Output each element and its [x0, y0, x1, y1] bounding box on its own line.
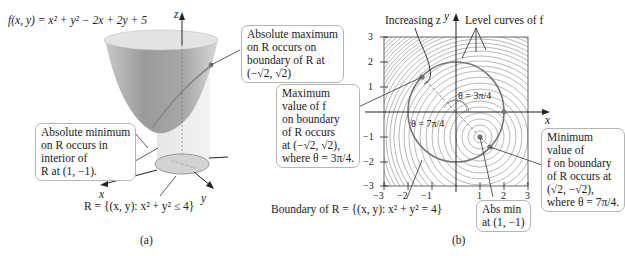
y-axis-label: y — [201, 192, 206, 204]
y-tick: 2 — [368, 56, 373, 67]
y-axis-arrow-b — [453, 13, 459, 21]
level-curves-label: Level curves of f — [465, 14, 543, 26]
caption-b: (b) — [452, 234, 465, 246]
callout-abs-min: Abs min at (1, −1) — [476, 200, 531, 232]
y-tick: −1 — [363, 131, 374, 142]
z-axis-arrow — [179, 12, 185, 20]
theta-lower-label: θ = 7π/4 — [411, 118, 444, 129]
increasing-z-label: Increasing z — [385, 14, 441, 26]
y-tick: −2 — [363, 156, 374, 167]
y-tick: 1 — [368, 81, 373, 92]
x-tick: −2 — [397, 190, 408, 201]
y-axis-arrow — [206, 181, 214, 189]
theta-upper-label: θ = 3π/4 — [458, 90, 491, 101]
callout-absolute-minimum: Absolute minimum on R occurs in interior… — [35, 123, 136, 181]
x-axis-label: x — [99, 188, 104, 200]
x-tick: −1 — [421, 190, 432, 201]
region-definition: R = {(x, y): x² + y² ≤ 4} — [84, 200, 194, 212]
y-tick: −3 — [363, 180, 374, 191]
boundary-label: Boundary of R = {(x, y): x² + y² = 4} — [271, 203, 442, 215]
x-tick: −3 — [373, 190, 384, 201]
callout-minimum-boundary: Minimum value of f on boundary of R occu… — [541, 128, 625, 212]
z-axis-label: z — [174, 8, 178, 20]
caption-a: (a) — [140, 234, 153, 246]
paraboloid-rim — [104, 30, 218, 50]
y-tick: 3 — [368, 31, 373, 42]
callout-absolute-maximum: Absolute maximum on R occurs on boundary… — [241, 25, 344, 83]
function-equation: f(x, y) = x² + y² − 2x + 2y + 5 — [8, 14, 147, 26]
y-axis-label-b: y — [444, 10, 449, 22]
x-axis-label-b: x — [545, 114, 550, 126]
callout-maximum-boundary: Maximum value of f on boundary of R occu… — [276, 84, 360, 168]
x-axis-arrow — [100, 181, 108, 187]
boundary-x-point — [502, 110, 507, 115]
